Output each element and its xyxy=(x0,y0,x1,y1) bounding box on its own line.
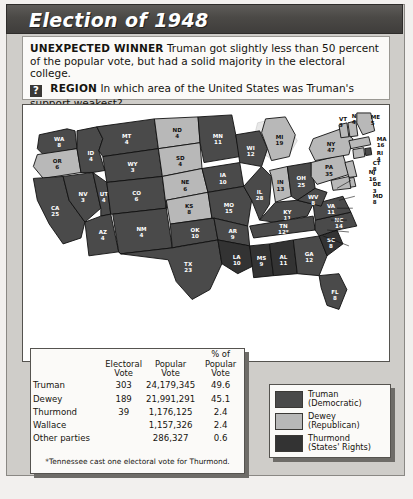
table-footnote: *Tennessee cast one electoral vote for T… xyxy=(31,457,244,466)
col-party xyxy=(31,349,103,379)
state-label-ok: OK10 xyxy=(191,227,201,239)
state-label-tn: TN12* xyxy=(278,223,289,235)
title-banner: Election of 1948 xyxy=(6,4,403,34)
page-title: Election of 1948 xyxy=(29,9,209,31)
state-label-de: DE3 xyxy=(373,181,382,193)
cell-popular-vote: 21,991,291 xyxy=(144,392,197,405)
election-map-panel: WA8OR6CA25ID4NV3UT4AZ4MT4WY3CO6NM4ND4SD4… xyxy=(22,104,390,362)
table-row: Wallace1,157,3262.4 xyxy=(31,418,244,431)
cell-popular-vote: 24,179,345 xyxy=(144,379,197,392)
cell-popular-vote: 1,176,125 xyxy=(144,405,197,418)
legend-color-swatch xyxy=(275,391,303,408)
state-label-in: IN13 xyxy=(277,179,285,191)
col-electoral-vote: Electoral Vote xyxy=(103,349,144,379)
cell-electoral-vote: 189 xyxy=(103,392,144,405)
legend-item: Truman (Democratic) xyxy=(275,390,386,409)
state-label-mo: MO15 xyxy=(224,202,235,214)
legend-color-swatch xyxy=(275,413,303,430)
state-label-la: LA10 xyxy=(233,254,242,266)
cell-electoral-vote xyxy=(103,418,144,431)
cell-party: Thurmond xyxy=(31,405,103,418)
table-header-row: Electoral Vote Popular Vote % of Popular… xyxy=(31,349,244,379)
state-ct[interactable] xyxy=(353,148,365,159)
state-label-ca: CA25 xyxy=(51,205,60,217)
infographic-page: Election of 1948 UNEXPECTED WINNER Truma… xyxy=(0,0,413,499)
state-label-wi: WI12 xyxy=(247,145,255,157)
legend-item-label: Dewey (Republican) xyxy=(308,412,360,431)
table-row: Truman30324,179,34549.6 xyxy=(31,379,244,392)
map-legend: Truman (Democratic)Dewey (Republican)Thu… xyxy=(269,384,391,458)
cell-percent: 45.1 xyxy=(197,392,244,405)
state-label-ma: MA16 xyxy=(377,136,388,148)
state-label-nj: NJ16 xyxy=(369,169,377,181)
state-label-ia: IA10 xyxy=(219,172,227,184)
legend-item: Thurmond (States' Rights) xyxy=(275,434,386,453)
question-mark-icon: ? xyxy=(30,85,42,97)
state-label-oh: OH25 xyxy=(297,175,307,187)
table-row: Thurmond391,176,1252.4 xyxy=(31,405,244,418)
unexpected-winner-line: UNEXPECTED WINNER Truman got slightly le… xyxy=(30,42,382,80)
cell-percent: 49.6 xyxy=(197,379,244,392)
vote-table-card: Electoral Vote Popular Vote % of Popular… xyxy=(30,348,245,474)
state-ri[interactable] xyxy=(365,148,372,156)
us-election-map: WA8OR6CA25ID4NV3UT4AZ4MT4WY3CO6NM4ND4SD4… xyxy=(23,105,389,361)
state-label-al: AL11 xyxy=(279,254,287,266)
col-popular-vote: Popular Vote xyxy=(144,349,197,379)
state-label-mn: MN11 xyxy=(213,133,224,145)
cell-popular-vote: 286,327 xyxy=(144,432,197,445)
state-label-tx: TX23 xyxy=(184,261,193,273)
legend-item: Dewey (Republican) xyxy=(275,412,386,431)
cell-percent: 2.4 xyxy=(197,405,244,418)
cell-party: Other parties xyxy=(31,432,103,445)
table-row: Other parties286,3270.6 xyxy=(31,432,244,445)
state-label-ga: GA12 xyxy=(305,251,315,263)
state-label-va: VA11 xyxy=(327,203,336,215)
cell-party: Dewey xyxy=(31,392,103,405)
cell-percent: 2.4 xyxy=(197,418,244,431)
legend-item-label: Truman (Democratic) xyxy=(308,390,362,409)
col-percent-popular: % of Popular Vote xyxy=(197,349,244,379)
legend-item-label: Thurmond (States' Rights) xyxy=(308,434,371,453)
unexpected-winner-label: UNEXPECTED WINNER xyxy=(30,42,164,54)
state-label-pa: PA35 xyxy=(325,164,334,176)
state-label-mi: MI19 xyxy=(276,134,284,146)
cell-party: Truman xyxy=(31,379,103,392)
state-label-nc: NC14 xyxy=(335,217,344,229)
cell-party: Wallace xyxy=(31,418,103,431)
region-label: REGION xyxy=(50,82,97,94)
cell-electoral-vote: 303 xyxy=(103,379,144,392)
cell-electoral-vote: 39 xyxy=(103,405,144,418)
state-label-md: MD8 xyxy=(373,193,384,205)
state-label-ny: NY47 xyxy=(327,141,337,153)
cell-percent: 0.6 xyxy=(197,432,244,445)
cell-popular-vote: 1,157,326 xyxy=(144,418,197,431)
caption-block: UNEXPECTED WINNER Truman got slightly le… xyxy=(22,36,390,100)
legend-color-swatch xyxy=(275,435,303,452)
table-row: Dewey18921,991,29145.1 xyxy=(31,392,244,405)
vote-results-table: Electoral Vote Popular Vote % of Popular… xyxy=(31,349,244,445)
state-label-me: ME5 xyxy=(371,114,381,126)
cell-electoral-vote xyxy=(103,432,144,445)
